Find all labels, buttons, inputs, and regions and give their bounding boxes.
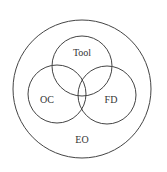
label-eo: EO <box>75 134 88 145</box>
label-tool: Tool <box>73 47 91 58</box>
label-oc: OC <box>40 94 54 105</box>
circle-oc <box>28 65 86 123</box>
label-fd: FD <box>105 94 118 105</box>
venn-diagram: Tool OC FD EO <box>0 0 167 172</box>
